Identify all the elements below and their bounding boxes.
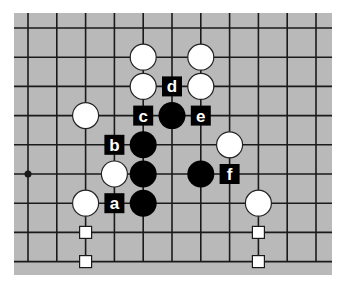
label-text: d	[167, 77, 177, 96]
white-stone	[188, 73, 214, 99]
white-stone	[73, 103, 99, 129]
label-text: e	[196, 107, 205, 126]
white-stone	[130, 44, 156, 70]
label-text: b	[109, 136, 119, 155]
go-board: dcebfa	[0, 0, 338, 289]
move-label-e: e	[191, 106, 211, 126]
go-diagram: dcebfa	[0, 0, 338, 289]
black-stone	[187, 161, 214, 188]
black-stone	[130, 190, 157, 217]
square-marker	[252, 226, 264, 238]
square-marker	[252, 256, 264, 268]
move-label-f: f	[220, 164, 240, 184]
move-label-b: b	[104, 135, 124, 155]
white-stone	[73, 190, 99, 216]
white-stone	[130, 73, 156, 99]
move-label-a: a	[104, 193, 124, 213]
label-text: c	[138, 107, 147, 126]
black-stone	[130, 131, 157, 158]
black-stone	[159, 102, 186, 129]
star-point	[25, 171, 32, 178]
white-stone	[101, 161, 127, 187]
square-marker	[80, 256, 92, 268]
white-stone	[217, 132, 243, 158]
black-stone	[130, 161, 157, 188]
white-stone	[245, 190, 271, 216]
label-text: a	[110, 194, 120, 213]
white-stone	[188, 44, 214, 70]
star-points	[25, 171, 32, 178]
move-label-c: c	[133, 106, 153, 126]
move-label-d: d	[162, 76, 182, 96]
label-text: f	[227, 165, 233, 184]
square-marker	[80, 226, 92, 238]
